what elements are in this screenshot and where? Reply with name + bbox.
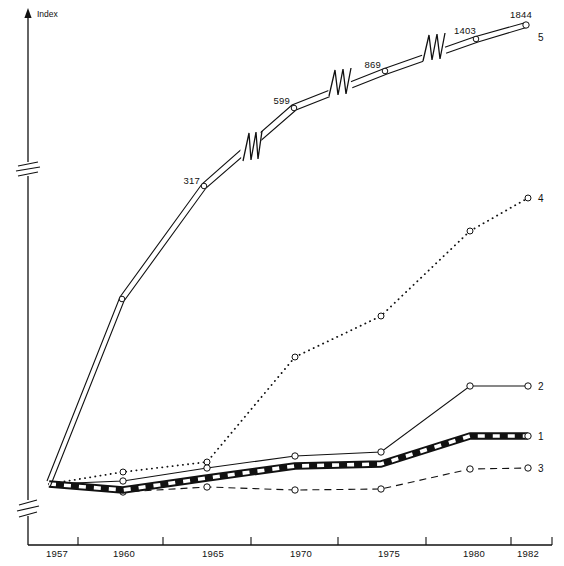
x-tick-label-1960: 1960	[113, 548, 135, 559]
series-4-end-label: 4	[538, 193, 544, 204]
value-label-1844: 1844	[510, 9, 532, 20]
value-label-1403: 1403	[454, 25, 476, 36]
x-tick-label-1957: 1957	[46, 548, 68, 559]
y-axis	[24, 8, 31, 545]
line-chart-svg: Index 1957 1960 1965 1970 1975 1980 1982…	[0, 0, 564, 566]
x-tick-labels: 1957 1960 1965 1970 1975 1980 1982	[46, 548, 539, 559]
y-axis-title: Index	[37, 9, 59, 19]
series-2-end-label: 2	[538, 381, 544, 392]
series-1-end-label: 1	[538, 431, 544, 442]
series-5-break-icon-1	[238, 129, 263, 163]
value-label-869: 869	[365, 59, 381, 70]
series-5-break-icon-3	[419, 32, 447, 64]
y-axis-arrow-icon	[24, 8, 31, 18]
series-1-markers	[525, 433, 531, 439]
value-label-599: 599	[274, 95, 290, 106]
series-5-markers	[119, 22, 529, 302]
x-tick-label-1970: 1970	[290, 548, 312, 559]
y-axis-break-icon-lower	[17, 500, 39, 517]
series-3-end-label: 3	[538, 463, 544, 474]
series-5-end-label: 5	[538, 32, 544, 43]
series-5-break-icon-2	[324, 67, 353, 99]
chart-container: Index 1957 1960 1965 1970 1975 1980 1982…	[0, 0, 564, 566]
x-tick-label-1982: 1982	[517, 548, 539, 559]
x-axis	[28, 537, 552, 545]
value-label-317: 317	[184, 175, 200, 186]
y-axis-break-icon-upper	[16, 162, 40, 176]
x-tick-label-1980: 1980	[463, 548, 485, 559]
series-5-line	[47, 23, 528, 487]
x-tick-label-1965: 1965	[202, 548, 224, 559]
x-tick-label-1975: 1975	[378, 548, 400, 559]
